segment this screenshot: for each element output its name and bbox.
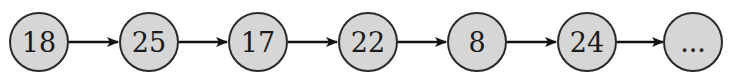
node-value: 25 [132,27,166,58]
linked-list-diagram: 18 25 17 22 8 24 ... [0,0,730,84]
node-value: 8 [468,27,485,58]
list-node: 24 [558,13,616,71]
list-node: 18 [10,13,68,71]
list-node: 17 [229,13,287,71]
node-value: 18 [22,27,56,58]
list-node: 25 [120,13,178,71]
node-value: 17 [241,27,275,58]
node-value: 22 [351,27,385,58]
list-node: 8 [448,13,506,71]
list-node-ellipsis: ... [664,13,722,71]
node-value-ellipsis: ... [680,27,706,58]
node-value: 24 [570,27,604,58]
list-node: 22 [339,13,397,71]
